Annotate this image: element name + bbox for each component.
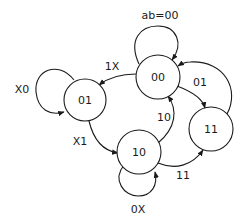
- state-01-label: 01: [78, 94, 92, 107]
- state-00: 00: [136, 55, 180, 99]
- state-01: 01: [64, 79, 106, 121]
- state-diagram: 00 01 10 11 ab=00 1X 01 X0 X1 0X 10 11: [0, 0, 244, 222]
- label-11: 11: [176, 169, 190, 182]
- label-10: 10: [157, 111, 171, 124]
- state-10: 10: [117, 130, 161, 174]
- transition-10-11: [158, 150, 203, 166]
- state-00-label: 00: [151, 71, 165, 84]
- label-01: 01: [193, 76, 207, 89]
- transition-01-10: [89, 121, 118, 153]
- transition-00-01: [99, 74, 136, 85]
- label-1x: 1X: [105, 60, 120, 73]
- state-11-label: 11: [204, 123, 218, 136]
- label-ab-00: ab=00: [142, 9, 179, 22]
- state-11: 11: [189, 107, 233, 151]
- label-x0: X0: [15, 83, 30, 96]
- transition-00-11: [177, 86, 205, 108]
- label-0x: 0X: [131, 203, 146, 216]
- label-x1: X1: [73, 135, 88, 148]
- state-10-label: 10: [132, 146, 146, 159]
